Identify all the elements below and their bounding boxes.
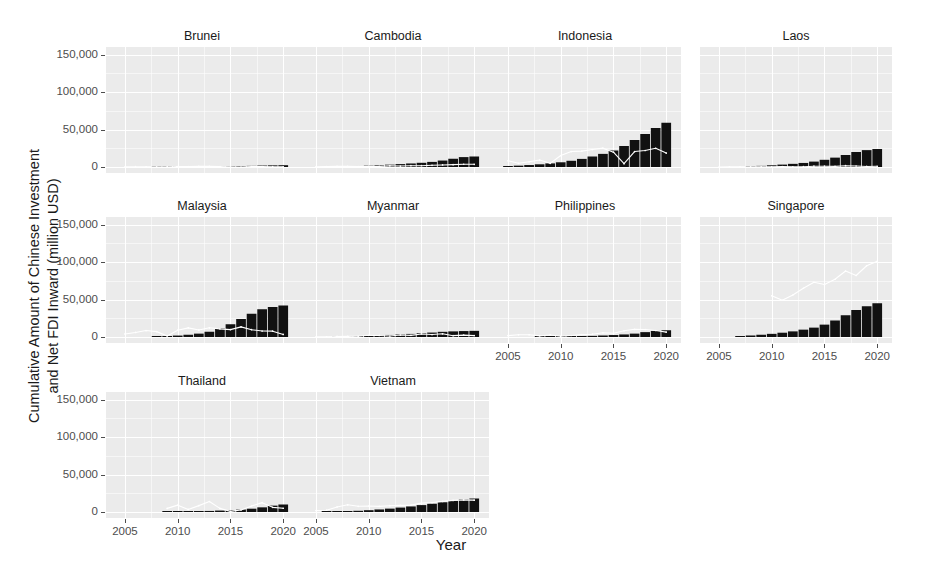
y-tick-mark: [101, 300, 105, 301]
x-tick-label: 2005: [291, 525, 341, 537]
x-axis-title-text: Year: [436, 536, 466, 553]
data-series-layer: [297, 217, 489, 343]
y-tick-label: 100,000: [40, 430, 98, 442]
facet-panel-philippines: Philippines: [489, 198, 681, 343]
y-tick-mark: [101, 55, 105, 56]
x-tick-label: 2010: [536, 350, 586, 362]
x-axis-title: Year: [0, 536, 930, 553]
x-tick-label: 2015: [588, 350, 638, 362]
data-series-layer: [489, 217, 681, 343]
data-series-layer: [106, 47, 298, 173]
data-series-layer: [297, 47, 489, 173]
y-tick-mark: [101, 130, 105, 131]
panel-plot-area: [489, 217, 681, 343]
panel-title-indonesia: Indonesia: [489, 28, 681, 45]
panel-plot-area: [297, 392, 489, 518]
x-tick-label: 2010: [153, 525, 203, 537]
x-tick-label: 2005: [100, 525, 150, 537]
y-tick-label: 100,000: [40, 85, 98, 97]
panel-title-myanmar: Myanmar: [297, 198, 489, 215]
y-tick-mark: [101, 437, 105, 438]
x-tick-mark: [877, 344, 878, 348]
x-tick-mark: [316, 519, 317, 523]
y-tick-mark: [101, 512, 105, 513]
panel-plot-area: [106, 392, 298, 518]
data-series-layer: [700, 217, 892, 343]
facet-panel-vietnam: Vietnam: [297, 373, 489, 518]
facet-panel-singapore: Singapore: [700, 198, 892, 343]
y-tick-label: 0: [40, 160, 98, 172]
panel-title-laos: Laos: [700, 28, 892, 45]
data-series-layer: [106, 392, 298, 518]
x-tick-label: 2005: [694, 350, 744, 362]
x-tick-mark: [719, 344, 720, 348]
facet-panel-thailand: Thailand: [106, 373, 298, 518]
panel-plot-area: [700, 217, 892, 343]
y-tick-label: 0: [40, 330, 98, 342]
y-tick-mark: [101, 475, 105, 476]
x-tick-mark: [421, 519, 422, 523]
bar-series-cumulative-investment: [503, 123, 671, 167]
x-tick-mark: [283, 519, 284, 523]
y-tick-mark: [101, 337, 105, 338]
y-axis-title-line2: and Net FDI Inward (million USD): [44, 149, 63, 423]
x-tick-label: 2020: [449, 525, 499, 537]
x-tick-mark: [561, 344, 562, 348]
y-tick-label: 150,000: [40, 393, 98, 405]
y-tick-label: 50,000: [40, 293, 98, 305]
y-tick-label: 100,000: [40, 255, 98, 267]
panel-plot-area: [106, 47, 298, 173]
x-tick-mark: [178, 519, 179, 523]
x-tick-mark: [474, 519, 475, 523]
y-tick-label: 150,000: [40, 218, 98, 230]
y-tick-label: 150,000: [40, 48, 98, 60]
data-series-layer: [489, 47, 681, 173]
y-tick-label: 0: [40, 505, 98, 517]
y-tick-mark: [101, 400, 105, 401]
x-tick-label: 2015: [799, 350, 849, 362]
x-tick-mark: [230, 519, 231, 523]
y-tick-mark: [101, 167, 105, 168]
x-tick-label: 2020: [641, 350, 691, 362]
panel-title-philippines: Philippines: [489, 198, 681, 215]
y-tick-label: 50,000: [40, 468, 98, 480]
x-tick-label: 2015: [396, 525, 446, 537]
panel-title-thailand: Thailand: [106, 373, 298, 390]
x-tick-mark: [666, 344, 667, 348]
panel-plot-area: [700, 47, 892, 173]
facet-panel-laos: Laos: [700, 28, 892, 173]
x-tick-label: 2020: [852, 350, 902, 362]
x-tick-label: 2015: [205, 525, 255, 537]
data-series-layer: [106, 217, 298, 343]
facet-panel-indonesia: Indonesia: [489, 28, 681, 173]
panel-plot-area: [106, 217, 298, 343]
panel-title-vietnam: Vietnam: [297, 373, 489, 390]
x-tick-label: 2005: [483, 350, 533, 362]
y-tick-mark: [101, 262, 105, 263]
x-tick-mark: [508, 344, 509, 348]
data-series-layer: [297, 392, 489, 518]
panel-title-cambodia: Cambodia: [297, 28, 489, 45]
x-tick-mark: [772, 344, 773, 348]
panel-plot-area: [297, 217, 489, 343]
y-tick-mark: [101, 225, 105, 226]
y-axis-title-line1: Cumulative Amount of Chinese Investment: [25, 149, 44, 423]
x-tick-mark: [824, 344, 825, 348]
facet-panel-malaysia: Malaysia: [106, 198, 298, 343]
line-series-net-fdi-inward: [771, 260, 878, 301]
x-tick-label: 2010: [344, 525, 394, 537]
facet-panel-cambodia: Cambodia: [297, 28, 489, 173]
x-tick-label: 2010: [747, 350, 797, 362]
panel-plot-area: [489, 47, 681, 173]
x-tick-mark: [369, 519, 370, 523]
y-tick-mark: [101, 92, 105, 93]
bar-series-cumulative-investment: [746, 149, 882, 167]
panel-title-singapore: Singapore: [700, 198, 892, 215]
data-series-layer: [700, 47, 892, 173]
facet-panel-myanmar: Myanmar: [297, 198, 489, 343]
faceted-chart-figure: Cumulative Amount of Chinese Investment …: [0, 0, 930, 572]
panel-plot-area: [297, 47, 489, 173]
x-tick-mark: [613, 344, 614, 348]
x-tick-mark: [125, 519, 126, 523]
bar-series-cumulative-investment: [152, 306, 288, 338]
